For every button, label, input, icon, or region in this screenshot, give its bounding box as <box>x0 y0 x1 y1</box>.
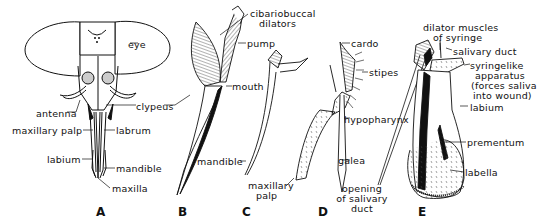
label-antenna: antenna <box>36 108 77 119</box>
panel-letter-a: A <box>96 205 105 219</box>
panel-e-labium <box>408 40 464 198</box>
label-labium-e: labium <box>470 102 504 113</box>
label-cardo: cardo <box>351 38 379 49</box>
panel-letter-b: B <box>178 205 187 219</box>
label-hypopharynx: hypopharynx <box>344 114 409 125</box>
label-labella: labella <box>465 167 498 178</box>
label-eye: eye <box>128 39 146 50</box>
label-prementum: prementum <box>467 137 525 148</box>
label-mandible: mandible <box>116 163 162 174</box>
label-salivary-duct: salivary duct <box>453 46 517 57</box>
label-into-wound: into wound) <box>473 90 532 101</box>
label-galea: galea <box>338 155 365 166</box>
label-dilators: dilators <box>259 18 296 29</box>
label-palp: palp <box>256 190 277 201</box>
label-maxilla: maxilla <box>112 183 148 194</box>
panel-letter-c: C <box>242 205 251 219</box>
label-stipes: stipes <box>369 67 398 78</box>
panel-c-mandible <box>245 50 308 175</box>
label-maxillary-palp: maxillary palp <box>12 125 82 136</box>
panel-letter-e: E <box>418 205 426 219</box>
label-labrum: labrum <box>116 125 151 136</box>
label-of-syringe: of syringe <box>433 32 482 43</box>
panel-letter-d: D <box>318 205 328 219</box>
label-clypeus: clypeus <box>136 101 174 112</box>
label-mandible-c: mandible <box>197 156 243 167</box>
mouthparts-figure: eye antenna clypeus maxillary palp labru… <box>0 0 540 224</box>
label-mouth: mouth <box>232 81 264 92</box>
label-pump: pump <box>247 38 275 49</box>
label-duct: duct <box>327 203 397 214</box>
label-labium: labium <box>47 154 81 165</box>
